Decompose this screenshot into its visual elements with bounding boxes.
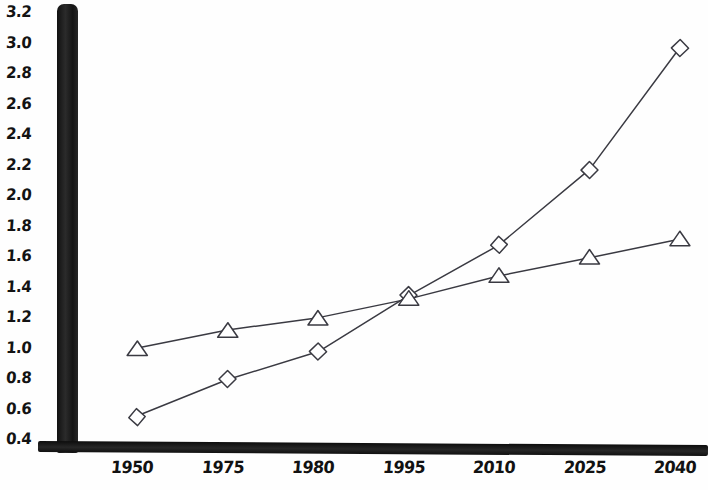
data-point-diamond [219, 371, 236, 388]
data-point-diamond [491, 236, 508, 253]
chart-canvas: 3.23.02.82.62.42.22.01.81.61.41.21.00.80… [0, 0, 708, 490]
data-point-diamond [671, 40, 688, 57]
data-point-triangle [308, 311, 328, 326]
data-point-diamond [581, 162, 598, 179]
data-point-diamond [309, 343, 326, 360]
series-layer [127, 40, 690, 426]
data-point-triangle [127, 341, 147, 356]
data-point-diamond [129, 409, 145, 426]
data-point-triangle [218, 323, 238, 338]
data-point-triangle [670, 231, 690, 246]
plot-area [0, 0, 708, 490]
series-line-diamond [136, 48, 680, 417]
